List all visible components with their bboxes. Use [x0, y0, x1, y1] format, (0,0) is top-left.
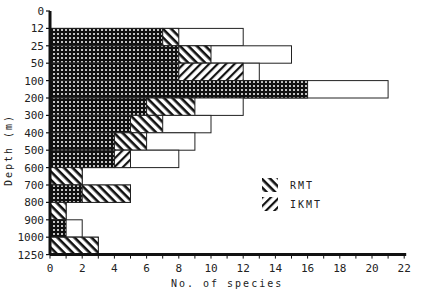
- y-tick-label: 800: [24, 196, 44, 209]
- y-tick-label: 200: [24, 92, 44, 105]
- bar-rmt-segment: [179, 46, 211, 63]
- bar-row: [50, 63, 259, 80]
- bar-rmt-segment: [50, 237, 98, 254]
- bar-row: [50, 115, 211, 132]
- x-tick-label: 8: [175, 262, 182, 275]
- legend-swatch-rmt: [262, 178, 278, 192]
- bar-crosshatch-segment: [50, 150, 114, 167]
- bar-row: [50, 202, 66, 219]
- x-tick-label: 4: [111, 262, 118, 275]
- bar-row: [50, 81, 388, 98]
- bar-rmt-segment: [131, 115, 163, 132]
- bar-crosshatch-segment: [50, 133, 114, 150]
- bar-row: [50, 168, 82, 185]
- x-tick-label: 18: [333, 262, 346, 275]
- legend: RMTIKMT: [262, 178, 322, 211]
- bar-crosshatch-segment: [50, 115, 131, 132]
- bar-crosshatch-segment: [50, 81, 308, 98]
- x-tick-label: 0: [47, 262, 54, 275]
- y-tick-label: 50: [31, 57, 44, 70]
- x-tick-label: 10: [204, 262, 217, 275]
- bar-crosshatch-segment: [50, 28, 163, 45]
- bar-rmt-segment: [147, 98, 195, 115]
- bar-row: [50, 185, 131, 202]
- legend-label-ikmt: IKMT: [290, 199, 322, 210]
- y-axis-title: Depth (m): [3, 114, 14, 186]
- x-tick-label: 20: [365, 262, 378, 275]
- bar-crosshatch-segment: [50, 46, 179, 63]
- bar-row: [50, 150, 179, 167]
- bar-row: [50, 46, 292, 63]
- x-tick-label: 14: [269, 262, 283, 275]
- y-tick-label: 500: [24, 144, 44, 157]
- x-tick-label: 12: [237, 262, 250, 275]
- bar-rmt-segment: [163, 28, 179, 45]
- bar-ikmt-segment: [114, 150, 130, 167]
- y-tick-label: 1250: [18, 249, 45, 262]
- y-tick-label: 700: [24, 179, 44, 192]
- y-tick-label: 600: [24, 162, 44, 175]
- y-tick-label: 900: [24, 214, 44, 227]
- y-tick-label: 1000: [18, 231, 45, 244]
- x-axis-title: No. of species: [171, 278, 283, 289]
- bar-crosshatch-segment: [50, 98, 147, 115]
- y-tick-label: 12: [31, 22, 44, 35]
- bar-rmt-segment: [82, 185, 130, 202]
- bar-crosshatch-segment: [50, 63, 179, 80]
- bar-row: [50, 237, 98, 254]
- y-tick-label: 0: [37, 5, 44, 18]
- x-tick-label: 2: [79, 262, 86, 275]
- bar-row: [50, 28, 243, 45]
- bar-ikmt-segment: [179, 63, 243, 80]
- y-tick-label: 300: [24, 109, 44, 122]
- legend-swatch-ikmt: [262, 197, 278, 211]
- bar-rmt-segment: [50, 202, 66, 219]
- y-tick-label: 25: [31, 40, 44, 53]
- legend-label-rmt: RMT: [290, 180, 314, 191]
- bar-row: [50, 220, 82, 237]
- bars-group: [50, 28, 388, 254]
- y-tick-label: 400: [24, 127, 44, 140]
- bar-crosshatch-segment: [50, 220, 66, 237]
- x-tick-label: 16: [301, 262, 314, 275]
- bar-row: [50, 98, 243, 115]
- x-tick-label: 22: [398, 262, 411, 275]
- bar-row: [50, 133, 195, 150]
- depth-species-chart: 0122550100200300400500600700800900100012…: [0, 0, 422, 289]
- y-tick-label: 100: [24, 75, 44, 88]
- bar-rmt-segment: [50, 168, 82, 185]
- x-tick-label: 6: [143, 262, 150, 275]
- bar-rmt-segment: [114, 133, 146, 150]
- bar-crosshatch-segment: [50, 185, 82, 202]
